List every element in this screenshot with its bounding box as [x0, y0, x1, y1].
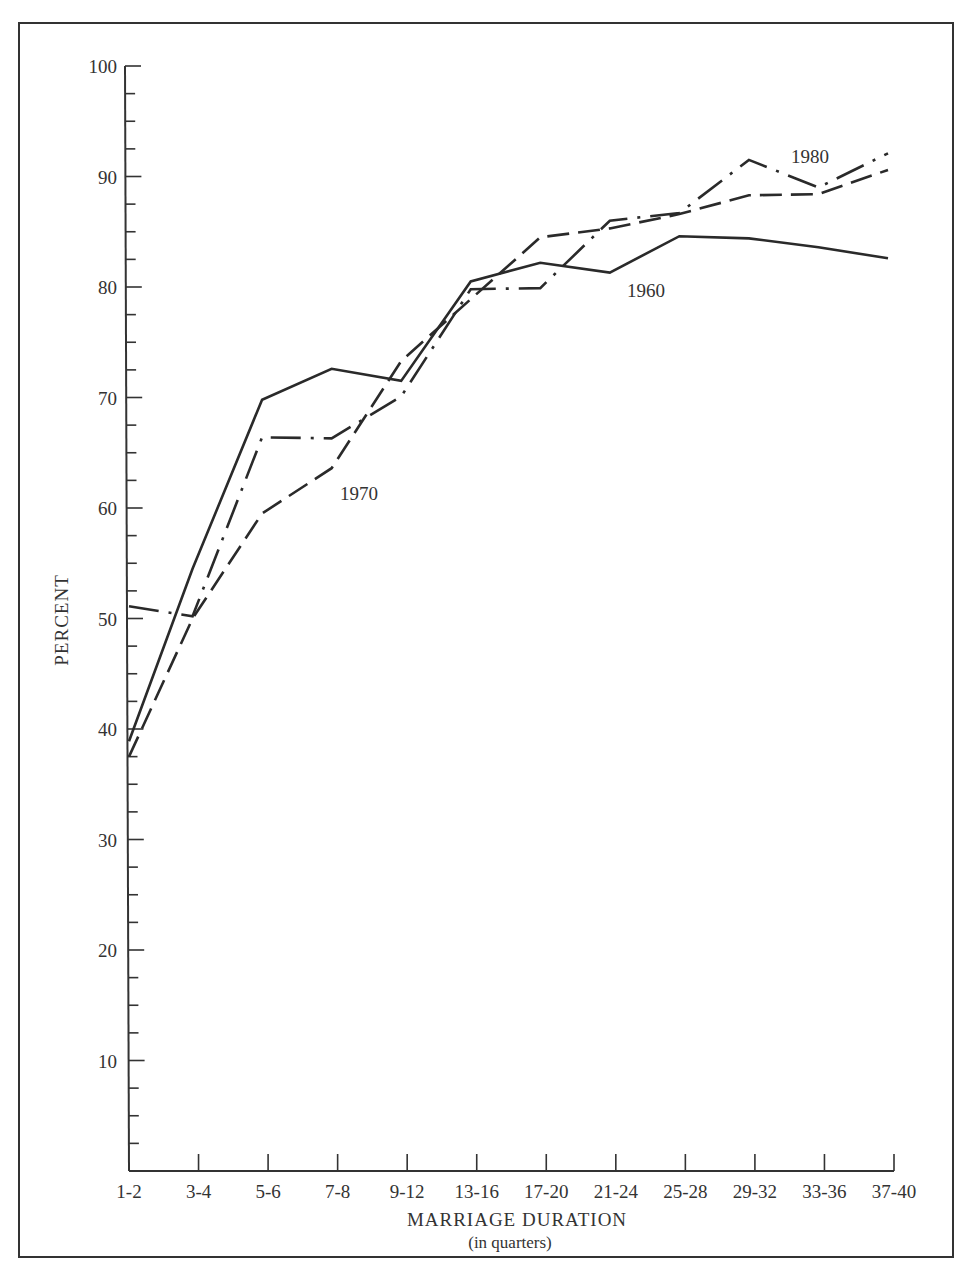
x-tick-label: 13-16 [455, 1181, 499, 1202]
y-tick-label: 70 [98, 388, 117, 409]
y-tick-label: 10 [98, 1051, 117, 1072]
x-tick-label: 29-32 [733, 1181, 777, 1202]
y-axis-title: PERCENT [51, 574, 72, 665]
x-tick-label: 3-4 [186, 1181, 212, 1202]
y-axis: 102030405060708090100 [89, 56, 145, 1171]
y-tick-label: 30 [98, 830, 117, 851]
y-tick-label: 50 [98, 609, 117, 630]
series-label-1960: 1960 [627, 280, 665, 301]
y-tick-label: 60 [98, 498, 117, 519]
series-label-1980: 1980 [791, 146, 829, 167]
x-axis-title: MARRIAGE DURATION [407, 1209, 627, 1230]
x-tick-label: 7-8 [325, 1181, 350, 1202]
x-tick-label: 9-12 [390, 1181, 425, 1202]
x-tick-label: 25-28 [663, 1181, 707, 1202]
x-axis-subtitle: (in quarters) [468, 1233, 552, 1252]
y-tick-label: 80 [98, 277, 117, 298]
series-line-1980 [129, 153, 888, 616]
x-axis: 1-23-45-67-89-1213-1617-2021-2425-2829-3… [116, 1154, 916, 1202]
x-tick-label: 1-2 [116, 1181, 141, 1202]
x-tick-label: 33-36 [802, 1181, 846, 1202]
x-tick-label: 17-20 [524, 1181, 568, 1202]
y-tick-label: 20 [98, 940, 117, 961]
line-chart: 102030405060708090100 1-23-45-67-89-1213… [0, 0, 968, 1280]
x-tick-label: 5-6 [255, 1181, 280, 1202]
series-label-1970: 1970 [340, 483, 378, 504]
y-tick-label: 100 [89, 56, 118, 77]
y-tick-label: 40 [98, 719, 117, 740]
x-tick-label: 37-40 [872, 1181, 916, 1202]
series-lines [129, 153, 888, 756]
series-labels: 196019701980 [340, 146, 829, 504]
y-tick-label: 90 [98, 167, 117, 188]
x-tick-label: 21-24 [594, 1181, 639, 1202]
series-line-1970 [129, 170, 888, 757]
